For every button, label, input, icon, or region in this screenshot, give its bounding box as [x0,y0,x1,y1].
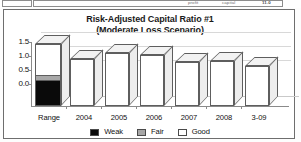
chart-page: profit capital 11.0 Risk-Adjusted Capita… [0,0,301,142]
x-label-2005: 2005 [102,113,136,122]
legend-label-weak: Weak [104,128,123,136]
bar-2007[interactable] [175,62,199,106]
weak-swatch-icon [90,129,99,136]
x-label-2007: 2007 [172,113,206,122]
legend-item-fair[interactable]: Fair [137,128,164,136]
plot-area: 1.5 1.0 0.5 0.0 [4,38,296,113]
bar-3-09-right-face [269,56,278,106]
bar-2008-right-face [234,51,243,106]
x-label-3-09: 3-09 [242,113,276,122]
good-swatch-icon [178,129,187,136]
scan-table-cell-left [2,0,32,7]
chart-title: Risk-Adjusted Capital Ratio #1 [4,14,296,25]
bar-range-front-face [35,44,61,106]
x-label-2006: 2006 [137,113,171,122]
chart-legend: Weak Fair Good [4,126,296,138]
bar-2008-front-face [210,61,234,106]
scan-artifact-strip: profit capital 11.0 [0,0,301,8]
bar-2005-right-face [129,43,138,106]
bar-range-right-face [61,34,70,106]
chart-container: Risk-Adjusted Capital Ratio #1 (Moderate… [3,9,295,139]
scan-fragment-3: 11.0 [262,0,271,5]
bar-2006-right-face [164,45,173,106]
bar-2005[interactable] [105,53,129,106]
back-wall-line-1.5 [41,32,291,33]
bar-2007-right-face [199,52,208,106]
scan-fragment-2: capital [222,0,235,5]
bar-2006-front-face [140,55,164,106]
scan-fragment-1: profit [188,0,198,5]
bar-2004-front-face [70,59,94,106]
legend-item-weak[interactable]: Weak [90,128,123,136]
bar-range[interactable] [35,44,61,106]
bar-2004[interactable] [70,59,94,106]
bar-3-09[interactable] [245,66,269,106]
bar-2005-front-face [105,53,129,106]
x-axis-labels: Range 2004 2005 2006 2007 2008 3-09 [4,113,296,125]
bar-2004-right-face [94,49,103,106]
x-label-range: Range [32,113,66,122]
fair-swatch-icon [137,129,146,136]
legend-label-fair: Fair [151,128,164,136]
bar-series-group [4,38,296,113]
x-label-2008: 2008 [207,113,241,122]
bar-range-segment-good [36,44,60,76]
bar-2006[interactable] [140,55,164,106]
bar-2007-front-face [175,62,199,106]
bar-range-segment-weak [36,81,60,105]
legend-label-good: Good [192,128,210,136]
bar-3-09-front-face [245,66,269,106]
x-label-2004: 2004 [67,113,101,122]
bar-2008[interactable] [210,61,234,106]
legend-item-good[interactable]: Good [178,128,210,136]
scan-table-cell-right [33,0,283,7]
